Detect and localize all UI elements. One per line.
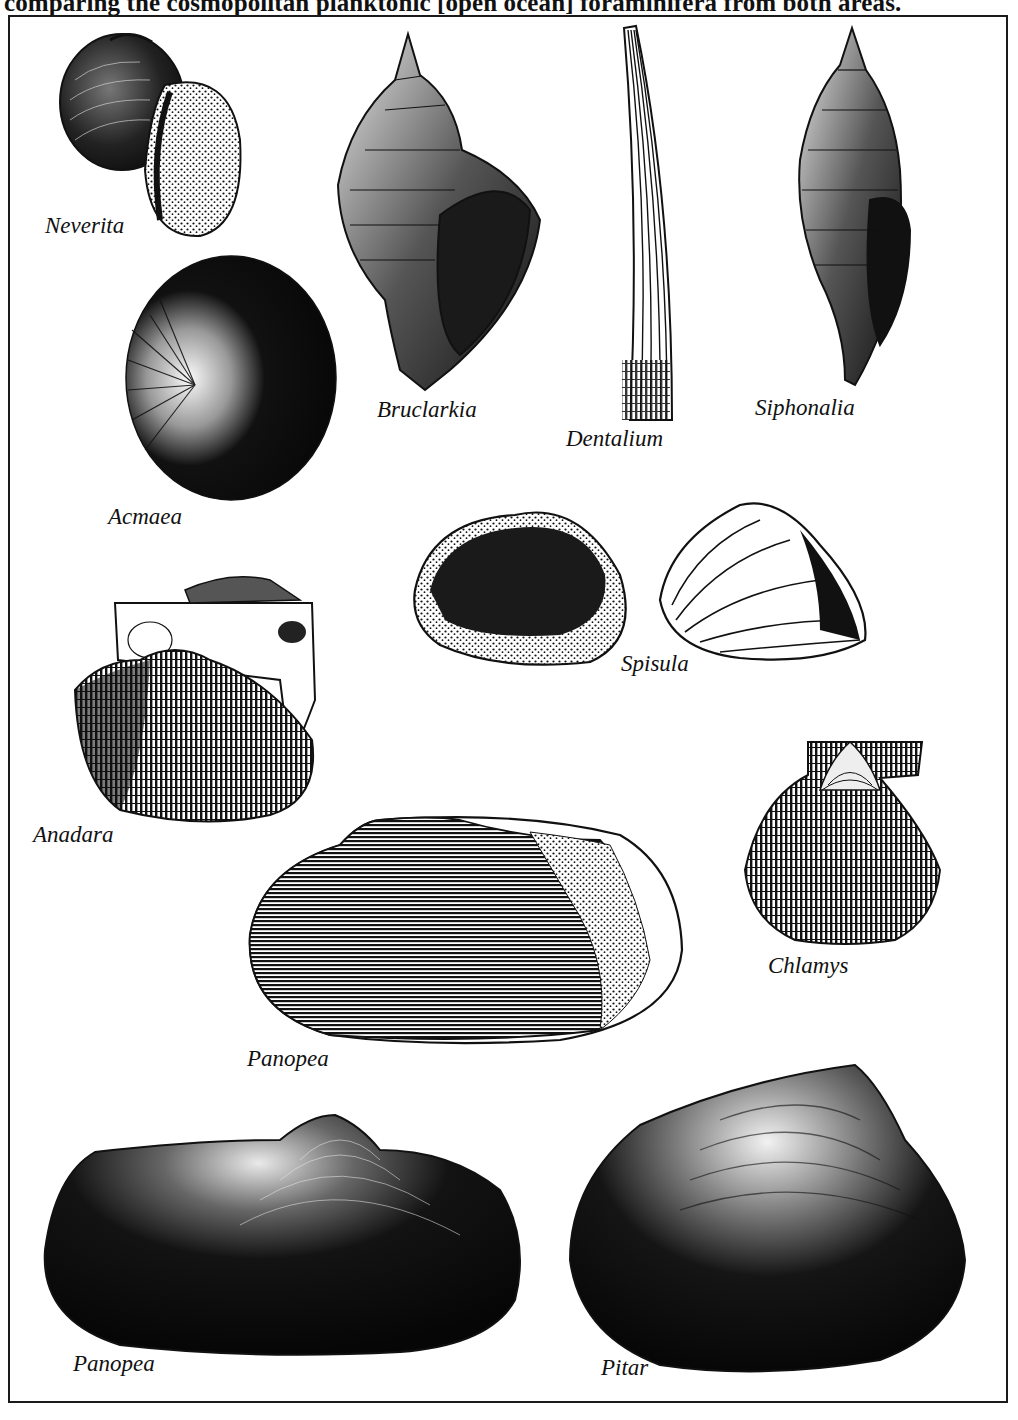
label-anadara: Anadara [33,823,114,846]
acmaea-shell [126,256,336,500]
spisula-shell-interior [414,513,625,665]
bruclarkia-shell [338,34,540,390]
label-acmaea: Acmaea [108,505,182,528]
label-spisula: Spisula [621,652,689,675]
label-siphonalia: Siphonalia [755,396,855,419]
panopea-shell-1 [250,817,682,1043]
dentalium-shell [622,26,672,420]
spisula-shell-exterior [660,503,865,659]
label-dentalium: Dentalium [566,427,663,450]
label-neverita: Neverita [45,214,124,237]
anadara-shell [75,577,315,822]
siphonalia-shell [799,28,910,385]
label-chlamys: Chlamys [768,954,849,977]
label-bruclarkia: Bruclarkia [377,398,477,421]
label-pitar: Pitar [601,1356,648,1379]
shell-plate-illustration [0,0,1018,1420]
label-panopea-middle: Panopea [247,1047,329,1070]
chlamys-shell [745,742,940,944]
neverita-shell [60,34,241,236]
label-panopea-bottom: Panopea [73,1352,155,1375]
panopea-shell-2 [45,1115,520,1355]
pitar-shell [570,1065,965,1371]
